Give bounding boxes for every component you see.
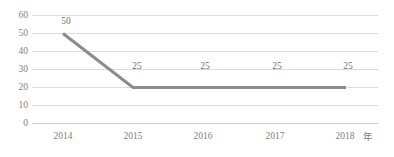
ytick-label-30: 30 [4,64,28,74]
data-point-label-2014: 50 [61,16,71,26]
ytick-label-0: 0 [4,118,28,128]
x-axis-unit-label: 年 [363,131,373,142]
data-point-label-2017: 25 [272,61,282,71]
xtick-label-2015: 2015 [124,131,143,142]
data-point-label-2015: 25 [132,61,142,71]
ytick-label-20: 20 [4,82,28,92]
data-point-label-2018: 25 [343,61,353,71]
ytick-label-50: 50 [4,28,28,38]
ytick-label-60: 60 [4,10,28,20]
line-chart: 60 50 40 30 20 10 0 2014 2015 2016 2017 … [0,0,394,157]
xtick-label-2017: 2017 [266,131,285,142]
xtick-label-2018: 2018 [336,131,355,142]
xtick-label-2014: 2014 [54,131,73,142]
ytick-label-40: 40 [4,46,28,56]
ytick-label-10: 10 [4,100,28,110]
data-point-label-2016: 25 [200,61,210,71]
xtick-label-2016: 2016 [194,131,213,142]
